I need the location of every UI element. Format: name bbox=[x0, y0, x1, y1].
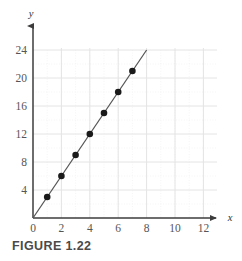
y-tick-label: 24 bbox=[16, 44, 28, 56]
x-tick-label: 6 bbox=[115, 222, 121, 234]
x-tick-label: 10 bbox=[169, 222, 181, 234]
data-point bbox=[115, 89, 122, 96]
y-tick-label: 16 bbox=[16, 100, 28, 112]
x-tick-label: 2 bbox=[59, 222, 65, 234]
x-tick-label: 4 bbox=[87, 222, 93, 234]
x-tick-label: 12 bbox=[198, 222, 210, 234]
data-point bbox=[72, 152, 79, 159]
data-point bbox=[87, 131, 94, 138]
chart-plot: y x 4 8 12 16 20 24 0 2 4 6 8 10 12 bbox=[0, 0, 242, 238]
data-point bbox=[101, 110, 108, 117]
x-tick-label: 0 bbox=[30, 222, 36, 234]
x-tick-labels: 0 2 4 6 8 10 12 bbox=[30, 222, 209, 234]
x-axis-label: x bbox=[227, 212, 233, 223]
y-tick-label: 4 bbox=[21, 184, 27, 196]
figure-container: y x 4 8 12 16 20 24 0 2 4 6 8 10 12 bbox=[0, 0, 242, 261]
data-point bbox=[129, 68, 136, 75]
y-tick-labels: 4 8 12 16 20 24 bbox=[16, 44, 28, 196]
y-tick-label: 8 bbox=[21, 156, 27, 168]
data-point bbox=[58, 173, 65, 180]
data-point bbox=[44, 194, 51, 201]
figure-caption: FIGURE 1.22 bbox=[12, 239, 91, 253]
y-axis-label: y bbox=[28, 8, 34, 19]
y-tick-label: 20 bbox=[16, 72, 28, 84]
y-tick-label: 12 bbox=[16, 128, 28, 140]
x-tick-label: 8 bbox=[144, 222, 150, 234]
